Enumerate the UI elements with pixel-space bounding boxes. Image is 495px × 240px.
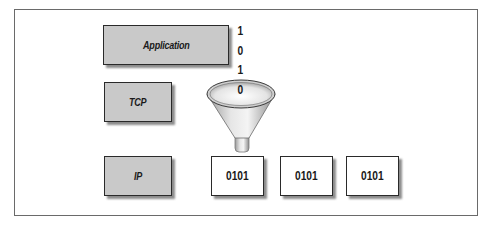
layer-ip: IP	[104, 156, 172, 196]
packet-2: 0101	[280, 156, 333, 196]
layer-tcp-label: TCP	[129, 96, 146, 108]
layer-application: Application	[103, 25, 229, 65]
bit-4: 0	[235, 83, 245, 97]
layer-application-label: Application	[143, 39, 189, 51]
layer-tcp: TCP	[104, 82, 172, 122]
bit-2: 0	[235, 44, 245, 58]
bit-3: 1	[235, 63, 245, 77]
packet-3: 0101	[346, 156, 399, 196]
layer-ip-label: IP	[134, 170, 142, 182]
bit-1: 1	[235, 24, 245, 38]
packet-1: 0101	[211, 156, 264, 196]
